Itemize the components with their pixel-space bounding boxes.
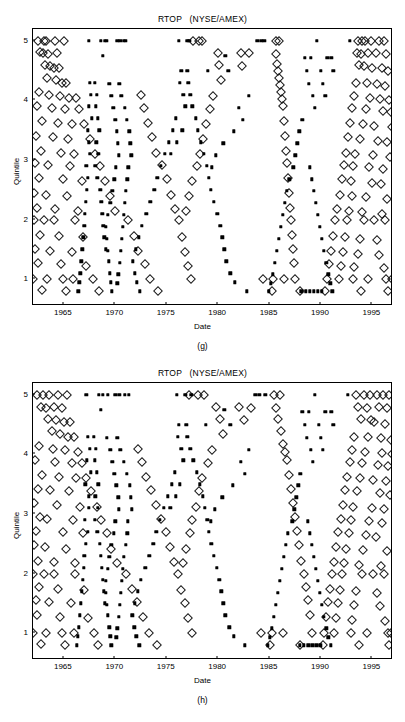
data-point-square xyxy=(175,393,178,396)
data-point-square xyxy=(114,393,117,396)
data-point-square xyxy=(237,106,240,109)
data-point-diamond xyxy=(181,544,191,554)
data-point-square xyxy=(136,590,139,593)
data-point-diamond xyxy=(32,274,38,284)
data-point-diamond xyxy=(102,528,112,538)
data-point-square xyxy=(256,39,259,42)
data-point-diamond xyxy=(280,274,290,284)
data-point-diamond xyxy=(382,194,392,204)
data-point-diamond xyxy=(329,557,339,567)
data-point-diamond xyxy=(330,215,340,225)
data-point-diamond xyxy=(201,119,211,129)
data-point-square xyxy=(109,643,112,646)
data-point-square xyxy=(90,117,93,120)
data-point-square xyxy=(189,93,192,96)
data-point-square xyxy=(220,590,223,593)
data-point-diamond xyxy=(166,190,176,200)
data-point-diamond xyxy=(73,447,83,457)
data-point-square xyxy=(174,494,177,497)
data-point-square xyxy=(310,543,313,546)
data-point-diamond xyxy=(63,134,73,144)
data-point-square xyxy=(81,248,84,251)
data-point-diamond xyxy=(343,132,353,142)
data-point-square xyxy=(314,567,317,570)
data-point-square xyxy=(186,69,189,72)
data-point-square xyxy=(99,188,102,191)
data-point-diamond xyxy=(187,176,197,186)
data-point-diamond xyxy=(62,390,72,400)
data-point-square xyxy=(117,496,120,499)
data-point-square xyxy=(210,542,213,545)
data-point-diamond xyxy=(165,542,175,552)
data-point-square xyxy=(77,626,80,629)
data-point-diamond xyxy=(338,247,348,257)
x-tick-mark xyxy=(62,302,63,305)
data-point-diamond xyxy=(55,91,65,101)
data-point-diamond xyxy=(138,612,148,622)
data-point-diamond xyxy=(331,613,341,623)
data-point-square xyxy=(75,643,78,646)
data-point-diamond xyxy=(282,455,292,465)
data-point-diamond xyxy=(140,259,150,269)
data-point-diamond xyxy=(208,91,218,101)
data-point-square xyxy=(232,634,235,637)
data-point-square xyxy=(319,69,322,72)
data-point-square xyxy=(178,81,181,84)
data-point-diamond xyxy=(329,628,339,638)
data-point-diamond xyxy=(357,458,367,468)
data-point-diamond xyxy=(358,119,368,129)
data-point-square xyxy=(308,165,311,168)
data-point-square xyxy=(109,280,112,283)
data-point-square xyxy=(106,213,109,216)
data-point-diamond xyxy=(67,247,77,257)
data-point-diamond xyxy=(110,206,120,216)
data-point-square xyxy=(94,447,97,450)
data-point-square xyxy=(212,554,215,557)
data-point-square xyxy=(263,39,266,42)
data-point-diamond xyxy=(351,78,361,88)
panel-g-y-axis-title: Quintile xyxy=(12,158,21,185)
data-point-square xyxy=(95,93,98,96)
data-point-square xyxy=(331,289,334,292)
data-point-square xyxy=(124,189,127,192)
data-point-square xyxy=(273,261,276,264)
data-point-square xyxy=(209,519,212,522)
x-tick-mark xyxy=(114,302,115,305)
data-point-square xyxy=(110,460,113,463)
data-point-square xyxy=(225,260,228,263)
data-point-square xyxy=(106,393,109,396)
y-tick-mark xyxy=(32,632,35,633)
data-point-square xyxy=(79,272,82,275)
data-point-square xyxy=(84,200,87,203)
data-point-square xyxy=(292,165,295,168)
data-point-square xyxy=(307,410,310,413)
data-point-square xyxy=(348,39,351,42)
data-point-diamond xyxy=(203,458,213,468)
y-tick-label: 5 xyxy=(10,35,28,44)
data-point-square xyxy=(275,249,278,252)
data-point-square xyxy=(222,602,225,605)
data-point-square xyxy=(101,54,104,57)
data-point-square xyxy=(114,519,117,522)
data-point-diamond xyxy=(383,286,392,296)
y-tick-mark xyxy=(32,572,35,573)
data-point-square xyxy=(323,410,326,413)
data-point-square xyxy=(247,448,250,451)
data-point-diamond xyxy=(41,190,51,200)
data-point-diamond xyxy=(360,447,370,457)
data-point-diamond xyxy=(58,274,68,284)
x-tick-label: 1995 xyxy=(363,308,381,317)
data-point-diamond xyxy=(323,597,333,607)
data-point-diamond xyxy=(379,264,389,274)
data-point-diamond xyxy=(244,48,254,58)
data-point-square xyxy=(207,530,210,533)
data-point-square xyxy=(95,471,98,474)
data-point-square xyxy=(303,423,306,426)
data-point-square xyxy=(117,273,120,276)
data-point-square xyxy=(229,423,232,426)
data-point-square xyxy=(94,494,97,497)
data-point-square xyxy=(109,94,112,97)
data-point-square xyxy=(93,518,96,521)
data-point-diamond xyxy=(60,104,70,114)
data-point-diamond xyxy=(294,540,304,550)
